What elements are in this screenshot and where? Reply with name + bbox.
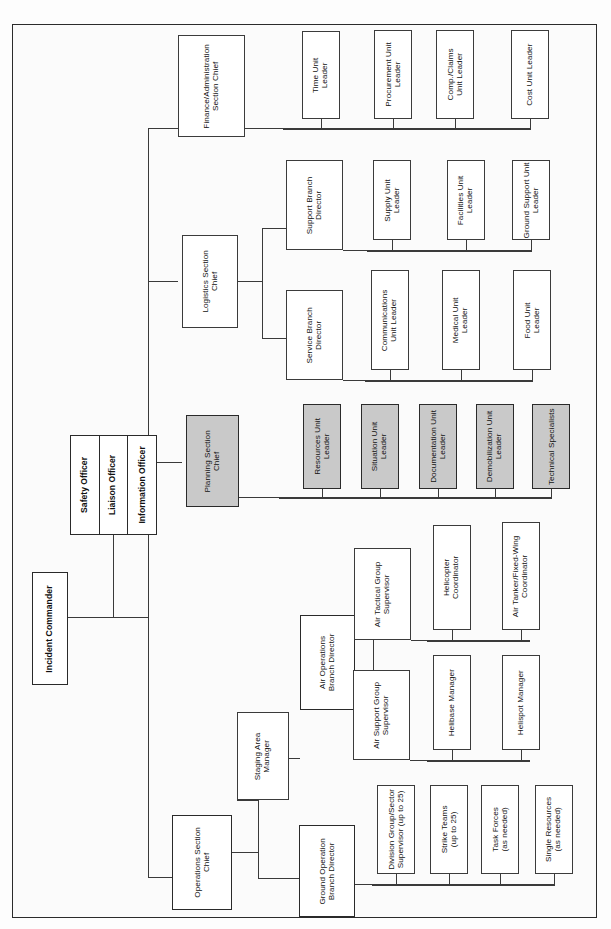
connector-spine-to-logistics [148, 281, 178, 282]
connector-operations-to-ground [258, 878, 300, 879]
node-label: Communications Unit Leader [381, 289, 400, 351]
connector-service-drop-2 [461, 370, 462, 380]
node-ground-support-unit-leader[interactable]: Ground Support Unit Leader [512, 160, 550, 240]
node-label: Situation Unit Leader [371, 422, 390, 472]
node-incident-commander[interactable]: Incident Commander [32, 572, 68, 685]
node-logistics-section-chief[interactable]: Logistics Section Chief [182, 235, 238, 328]
node-situation-unit-leader[interactable]: Situation Unit Leader [361, 404, 399, 489]
node-air-operations-branch-director[interactable]: Air Operations Branch Director [300, 615, 355, 710]
connector-support-drop-2 [466, 240, 467, 250]
connector-ground-drop-3 [500, 874, 501, 884]
connector-tactical-unit-bus [427, 640, 530, 642]
node-label: Air Tanker/Fixed-Wing Coordinator [512, 535, 531, 617]
node-label: Division Group/Sector Supervisor (up to … [387, 789, 406, 870]
node-comp-claims-unit-leader[interactable]: Comp./Claims Unit Leader [436, 30, 474, 119]
node-facilities-unit-leader[interactable]: Facilities Unit Leader [447, 160, 485, 240]
connector-logistics-branch-bus [262, 228, 263, 338]
node-air-tactical-group-supervisor[interactable]: Air Tactical Group Supervisor [354, 548, 411, 640]
node-support-branch-director[interactable]: Support Branch Director [286, 160, 343, 250]
node-helibase-manager[interactable]: Helibase Manager [433, 655, 471, 750]
node-technical-specialists[interactable]: Technical Specialists [532, 404, 570, 489]
connector-tactical-drop-2 [521, 630, 522, 640]
connector-spine-to-finance [148, 128, 178, 129]
connector-tactical-out [411, 640, 427, 641]
node-cost-unit-leader[interactable]: Cost Unit Leader [511, 30, 549, 119]
connector-tactical-drop-1 [452, 630, 453, 640]
node-label: Supply Unit Leader [383, 179, 402, 222]
connector-finance-drop-3 [455, 118, 456, 128]
connector-operations-chief-out [232, 852, 258, 853]
node-demobilization-unit-leader[interactable]: Demobilization Unit Leader [476, 404, 514, 489]
node-communications-unit-leader[interactable]: Communications Unit Leader [371, 270, 409, 370]
node-service-branch-director[interactable]: Service Branch Director [286, 290, 343, 380]
node-safety-officer[interactable]: Safety Officer [71, 436, 100, 534]
ics-org-chart: Incident Commander Safety Officer Liaiso… [0, 0, 611, 929]
node-label: Food Unit Leader [523, 302, 542, 338]
node-helicopter-coordinator[interactable]: Helicopter Coordinator [433, 525, 471, 630]
node-task-forces[interactable]: Task Forces (as needed) [481, 785, 519, 874]
node-resources-unit-leader[interactable]: Resources Unit Leader [303, 404, 341, 489]
node-label: Logistics Section Chief [201, 250, 220, 312]
node-label: Ground Support Unit Leader [522, 162, 541, 238]
node-strike-teams[interactable]: Strike Teams (up to 25) [430, 785, 468, 874]
node-label: Procurement Unit Leader [384, 42, 403, 107]
node-label: Single Resources (as needed) [545, 797, 564, 862]
connector-airsupport-drop-1 [452, 750, 453, 760]
node-ground-operation-branch-director[interactable]: Ground Operation Branch Director [299, 825, 355, 917]
connector-command-staff-drop [113, 535, 114, 618]
node-label: Helispot Manager [516, 670, 525, 735]
node-operations-section-chief[interactable]: Operations Section Chief [172, 815, 232, 910]
connector-service-drop-3 [532, 370, 533, 380]
node-time-unit-leader[interactable]: Time Unit Leader [302, 31, 340, 119]
node-label: Safety Officer [80, 457, 90, 513]
node-label: Strike Teams (up to 25) [440, 806, 459, 854]
connector-support-drop-1 [392, 240, 393, 250]
node-label: Staging Area Manager [254, 732, 273, 780]
connector-finance-drop-1 [321, 118, 322, 128]
node-finance-section-chief[interactable]: Finance/Administration Section Chief [178, 35, 245, 137]
connector-logistics-chief-out [238, 281, 262, 282]
node-label: Technical Specialists [546, 408, 555, 485]
node-label: Support Branch Director [305, 176, 324, 234]
node-information-officer[interactable]: Information Officer [128, 436, 156, 534]
node-label: Helibase Manager [447, 669, 456, 736]
connector-finance-unit-bus [283, 128, 531, 130]
node-label: Planning Section Chief [203, 430, 222, 492]
node-air-tanker-fixed-wing-coordinator[interactable]: Air Tanker/Fixed-Wing Coordinator [502, 522, 540, 630]
node-label: Facilities Unit Leader [457, 175, 476, 225]
node-label: Information Officer [137, 446, 147, 523]
node-planning-section-chief[interactable]: Planning Section Chief [186, 415, 239, 507]
connector-finance-drop-4 [530, 118, 531, 128]
connector-airsupport-out [410, 760, 427, 761]
node-single-resources[interactable]: Single Resources (as needed) [535, 785, 573, 874]
connector-spine-to-operations [148, 877, 172, 878]
connector-support-drop-3 [531, 240, 532, 250]
node-documentation-unit-leader[interactable]: Documentation Unit Leader [419, 404, 457, 489]
node-label: Ground Operation Branch Director [318, 838, 337, 904]
node-label: Demobilization Unit Leader [486, 411, 505, 483]
node-liaison-officer[interactable]: Liaison Officer [100, 436, 129, 534]
connector-ground-unit-bus [372, 884, 555, 886]
node-label: Service Branch Director [305, 307, 324, 363]
node-label: Cost Unit Leader [525, 43, 534, 105]
connector-ground-drop-1 [396, 874, 397, 884]
node-medical-unit-leader[interactable]: Medical Unit Leader [442, 270, 480, 370]
node-procurement-unit-leader[interactable]: Procurement Unit Leader [374, 30, 412, 119]
node-staging-area-manager[interactable]: Staging Area Manager [237, 712, 289, 800]
node-helispot-manager[interactable]: Helispot Manager [502, 655, 540, 750]
node-label: Operations Section Chief [193, 827, 212, 898]
node-food-unit-leader[interactable]: Food Unit Leader [513, 270, 551, 370]
connector-ground-drop-2 [449, 874, 450, 884]
connector-planning-chief-out [239, 497, 279, 498]
connector-ic-to-spine [67, 617, 149, 618]
node-label: Air Operations Branch Director [318, 634, 337, 692]
node-label: Air Support Group Supervisor [372, 682, 391, 749]
node-label: Finance/Administration Section Chief [202, 44, 221, 129]
connector-operations-to-staging [237, 800, 258, 801]
node-supply-unit-leader[interactable]: Supply Unit Leader [373, 160, 411, 240]
node-division-group-sector-supervisor[interactable]: Division Group/Sector Supervisor (up to … [377, 785, 415, 874]
node-label: Time Unit Leader [312, 57, 331, 92]
connector-finance-chief-bus [245, 128, 283, 129]
node-air-support-group-supervisor[interactable]: Air Support Group Supervisor [353, 670, 410, 760]
node-label: Comp./Claims Unit Leader [446, 48, 465, 100]
